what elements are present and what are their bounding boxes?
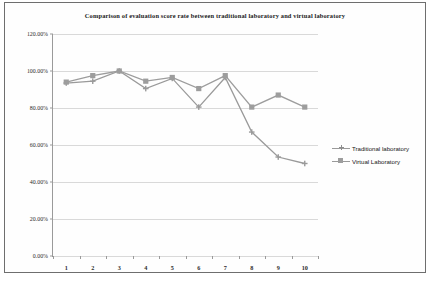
x-tick-label: 8 <box>250 264 253 271</box>
x-tick-mark <box>186 256 187 259</box>
y-tick-label: 120.00% <box>27 31 48 37</box>
x-tick-mark <box>212 256 213 259</box>
data-point-marker <box>90 78 96 84</box>
x-tick-mark <box>239 256 240 259</box>
legend-item-traditional-laboratory[interactable]: Traditional laboratory <box>332 142 424 155</box>
legend-label-virtual-laboratory: Virtual Laboratory <box>350 158 400 165</box>
x-tick-mark <box>133 256 134 259</box>
x-tick-mark <box>159 256 160 259</box>
x-tick-mark <box>80 256 81 259</box>
y-tick-label: 0.00% <box>33 253 48 259</box>
x-tick-label: 1 <box>65 264 68 271</box>
plot-area: 0.00%20.00%40.00%60.00%80.00%100.00%120.… <box>53 34 318 256</box>
data-point-marker <box>276 92 281 97</box>
series-plot <box>53 34 318 256</box>
x-tick-label: 2 <box>91 264 94 271</box>
x-tick-label: 5 <box>171 264 174 271</box>
x-tick-label: 7 <box>224 264 227 271</box>
x-tick-label: 6 <box>197 264 200 271</box>
y-tick-label: 20.00% <box>30 216 48 222</box>
data-point-marker <box>249 104 254 109</box>
y-tick-label: 60.00% <box>30 142 48 148</box>
legend-item-virtual-laboratory[interactable]: Virtual Laboratory <box>332 155 424 168</box>
y-tick-label: 100.00% <box>27 68 48 74</box>
cross-marker-icon <box>332 144 350 153</box>
square-marker-icon <box>332 157 350 166</box>
data-point-marker <box>302 104 307 109</box>
data-point-marker <box>64 80 69 85</box>
data-point-marker <box>90 73 95 78</box>
chart-figure-frame: Comparison of evaluation score rate betw… <box>4 2 426 273</box>
x-tick-label: 9 <box>277 264 280 271</box>
data-point-marker <box>302 161 308 167</box>
chart-legend: Traditional laboratory Virtual Laborator… <box>332 142 424 168</box>
x-tick-mark <box>318 256 319 259</box>
x-tick-mark <box>106 256 107 259</box>
x-tick-label: 3 <box>118 264 121 271</box>
y-tick-label: 40.00% <box>30 179 48 185</box>
figure-caption <box>6 276 426 284</box>
data-point-marker <box>223 73 228 78</box>
data-point-marker <box>143 79 148 84</box>
x-tick-label: 10 <box>302 264 308 271</box>
series-line-traditional-laboratory <box>66 71 305 164</box>
x-tick-mark <box>265 256 266 259</box>
series-line-virtual-laboratory <box>66 71 305 107</box>
data-point-marker <box>170 75 175 80</box>
x-tick-mark <box>292 256 293 259</box>
x-tick-label: 4 <box>144 264 147 271</box>
chart-title: Comparison of evaluation score rate betw… <box>5 12 425 19</box>
x-tick-mark <box>53 256 54 259</box>
y-tick-label: 80.00% <box>30 105 48 111</box>
legend-label-traditional-laboratory: Traditional laboratory <box>350 145 409 152</box>
data-point-marker <box>117 68 122 73</box>
data-point-marker <box>196 86 201 91</box>
